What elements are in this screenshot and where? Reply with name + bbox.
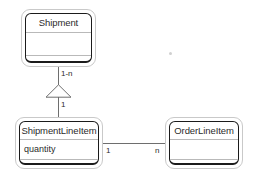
class-box-inner: ShipmentLineItem quantity [19, 121, 99, 165]
generalization-line-lower [58, 97, 59, 117]
class-name-shipment: Shipment [26, 14, 91, 33]
class-box-orderlineitem[interactable]: OrderLineItem [165, 117, 243, 169]
class-attributes-orderlineitem [170, 140, 238, 160]
class-box-inner: Shipment [25, 13, 92, 63]
class-box-shipmentlineitem[interactable]: ShipmentLineItem quantity [15, 117, 103, 169]
multiplicity-association-source: 1 [106, 147, 110, 155]
generalization-line-upper [58, 67, 59, 85]
class-box-shipment[interactable]: Shipment [21, 9, 96, 67]
class-name-orderlineitem: OrderLineItem [170, 122, 238, 140]
class-operations-shipment [26, 56, 91, 61]
uml-class-diagram-canvas: Shipment 1-n 1 ShipmentLineItem quantity… [0, 0, 254, 183]
multiplicity-association-target: n [155, 147, 159, 155]
class-attributes-shipment [26, 33, 91, 56]
class-attribute-quantity: quantity [20, 140, 98, 160]
class-name-shipmentlineitem: ShipmentLineItem [20, 122, 98, 140]
generalization-arrowhead-icon [45, 84, 72, 98]
class-operations-shipmentlineitem [20, 160, 98, 164]
class-operations-orderlineitem [170, 160, 238, 164]
class-box-inner: OrderLineItem [169, 121, 239, 165]
association-line [103, 143, 165, 144]
multiplicity-generalization-target: 1-n [61, 70, 73, 78]
image-artifact-speck [169, 52, 172, 55]
multiplicity-generalization-source: 1 [61, 101, 65, 109]
